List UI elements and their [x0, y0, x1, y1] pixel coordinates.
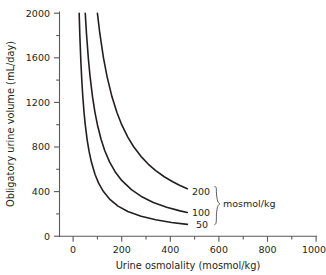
x-ticklabel-0: 0	[70, 244, 76, 255]
legend-brace-icon	[215, 187, 221, 225]
x-axis-title: Urine osmolality (mosmol/kg)	[116, 260, 261, 271]
series-label-100: 100	[192, 207, 210, 218]
x-ticklabel-200: 200	[113, 244, 131, 255]
x-ticklabel-800: 800	[258, 244, 276, 255]
curve-series-200	[97, 13, 187, 189]
x-ticklabel-1000: 1000	[302, 244, 326, 255]
series-label-50: 50	[196, 219, 208, 230]
y-ticklabel-1600: 1600	[26, 52, 50, 63]
y-ticklabel-400: 400	[32, 186, 50, 197]
series-annotations: 200 100 50 mosmol/kg	[192, 186, 275, 230]
chart-figure: 2000 1600 1200 800 400 0 Obligatory urin…	[0, 0, 326, 275]
x-axis: 0 200 400 600 800 1000 Urine osmolality …	[60, 236, 326, 271]
legend-unit-label: mosmol/kg	[223, 198, 275, 209]
x-ticklabel-600: 600	[210, 244, 228, 255]
x-ticklabel-400: 400	[161, 244, 179, 255]
y-ticklabel-2000: 2000	[26, 8, 50, 19]
y-ticklabel-1200: 1200	[26, 97, 50, 108]
data-curves	[79, 13, 187, 224]
y-axis-title: Obligatory urine volume (mL/day)	[5, 41, 16, 207]
y-ticklabel-800: 800	[32, 141, 50, 152]
chart-svg: 2000 1600 1200 800 400 0 Obligatory urin…	[0, 0, 326, 275]
series-label-200: 200	[192, 186, 210, 197]
y-axis: 2000 1600 1200 800 400 0 Obligatory urin…	[5, 8, 60, 242]
y-ticklabel-0: 0	[44, 231, 50, 242]
curve-series-50	[79, 13, 187, 224]
